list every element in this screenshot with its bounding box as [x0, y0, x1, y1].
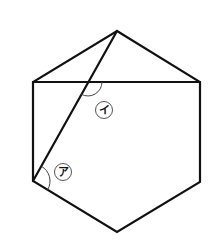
hexagon-diagram: ア イ [0, 0, 210, 250]
label-text-i: イ [99, 104, 110, 117]
label-text-a: ア [58, 166, 69, 179]
angle-label-a: ア [55, 164, 72, 181]
angle-label-i: イ [96, 102, 113, 119]
hexagon-outline [33, 31, 200, 232]
